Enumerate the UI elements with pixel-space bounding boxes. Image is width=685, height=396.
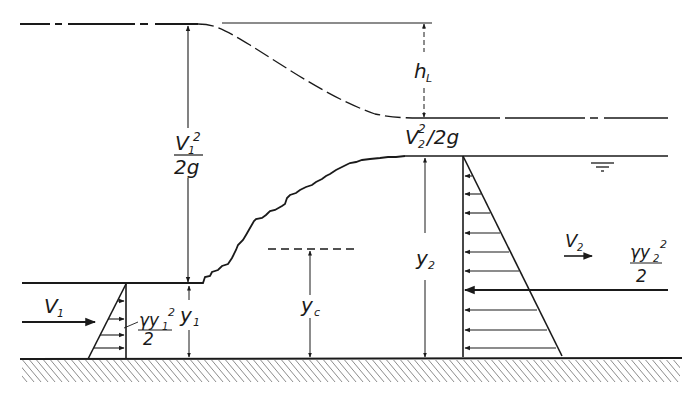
force-2-label: γy 2 2 2	[630, 238, 667, 286]
bed-line	[20, 358, 682, 359]
depth-2-label: y	[415, 246, 429, 270]
velocity-1-subscript: 1	[57, 307, 64, 320]
critical-depth-dimension: y c	[300, 251, 320, 357]
velocity-head-2-sup: 2	[418, 122, 426, 136]
force-1-label: γy 1 2 2	[138, 306, 175, 349]
velocity-head-1-dimension: V 1 2 2g	[174, 26, 203, 282]
depth-1-label: y	[179, 303, 193, 327]
velocity-head-1-superscript: 2	[193, 130, 201, 144]
velocity-2-arrow: V 2	[564, 230, 592, 256]
bed-hatching	[22, 360, 680, 382]
force-1-denominator: 2	[143, 329, 154, 349]
channel-bed	[20, 358, 682, 382]
force-2-numerator: γy	[630, 242, 651, 262]
energy-grade-line	[20, 24, 668, 118]
head-loss-label: h	[414, 59, 427, 83]
velocity-head-2-rest: /2g	[425, 125, 459, 149]
head-loss-dimension: h L	[414, 24, 432, 117]
head-loss-subscript: L	[426, 72, 432, 85]
velocity-1-arrow: V 1	[22, 294, 95, 322]
force-2-superscript: 2	[660, 238, 667, 251]
pressure-diagram-upstream	[88, 283, 138, 359]
force-1-superscript: 2	[168, 306, 175, 319]
velocity-2-subscript: 2	[577, 242, 583, 253]
velocity-head-2-label: V 2 2 /2g	[405, 122, 459, 151]
velocity-head-2-sub: 2	[418, 138, 425, 151]
water-surface-symbol	[591, 163, 614, 171]
force-2-denominator: 2	[636, 266, 647, 286]
depth-1-subscript: 1	[193, 316, 200, 329]
depth-2-subscript: 2	[428, 259, 435, 272]
force-1-numerator: γy	[139, 310, 160, 330]
velocity-head-1-denominator: 2g	[174, 155, 199, 179]
force-2-subscript: 2	[653, 253, 659, 264]
hydraulic-jump-profile	[200, 156, 405, 283]
critical-depth-label: y	[300, 293, 314, 317]
critical-depth-subscript: c	[314, 306, 320, 319]
depth-1-dimension: y 1	[179, 286, 200, 357]
hydraulic-jump-diagram: h L V 1 2 2g V 2 2 /2g y c	[0, 0, 685, 396]
depth-2-dimension: y 2	[415, 158, 435, 357]
